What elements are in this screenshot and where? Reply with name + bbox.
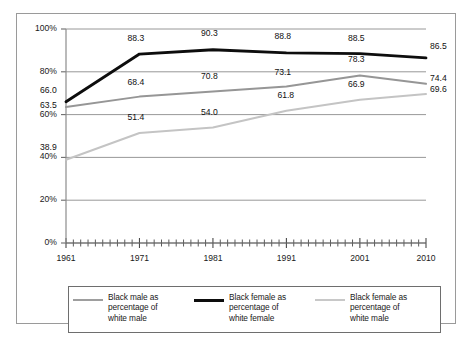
line-chart-plot xyxy=(17,14,455,323)
legend-label-2: Black female as percentage of white male xyxy=(350,292,407,323)
data-point-label: 69.6 xyxy=(430,84,447,94)
data-point-label: 54.0 xyxy=(201,107,218,117)
legend-line-swatch-0 xyxy=(73,293,103,305)
data-point-label: 88.5 xyxy=(348,33,365,43)
legend-entry-black-female-white-female: Black female as percentage of white fema… xyxy=(194,292,315,323)
x-axis-tick-label: 2001 xyxy=(335,253,385,263)
y-axis-tick-label: 0% xyxy=(17,237,57,247)
data-point-label: 73.1 xyxy=(274,67,291,77)
series-lines xyxy=(66,50,426,160)
x-axis-tick-label: 1991 xyxy=(261,253,311,263)
legend-entry-black-male-white-male: Black male as percentage of white male xyxy=(73,292,194,323)
legend-line-swatch-1 xyxy=(194,293,224,305)
data-point-label: 61.8 xyxy=(277,90,294,100)
x-axis-tick-label: 2010 xyxy=(401,253,451,263)
chart-screenshot: 0%20%40%60%80%100% 196119711981199120012… xyxy=(0,0,473,338)
y-axis-tick-label: 100% xyxy=(17,23,57,33)
data-point-label: 90.3 xyxy=(201,28,218,38)
legend-label-1: Black female as percentage of white fema… xyxy=(229,292,286,323)
x-axis-tick-label: 1981 xyxy=(188,253,238,263)
data-point-label: 66.9 xyxy=(348,79,365,89)
legend-entry-black-female-white-male: Black female as percentage of white male xyxy=(315,292,436,323)
series-line-1 xyxy=(66,50,426,102)
data-point-label: 70.8 xyxy=(201,71,218,81)
data-point-label: 63.5 xyxy=(40,100,57,110)
legend-label-0: Black male as percentage of white male xyxy=(108,292,158,323)
y-axis-tick-label: 80% xyxy=(17,66,57,76)
chart-legend: Black male as percentage of white male B… xyxy=(68,286,441,333)
data-point-label: 66.0 xyxy=(40,85,57,95)
gridlines xyxy=(66,29,426,243)
data-point-label: 88.8 xyxy=(274,31,291,41)
y-axis-tick-marks xyxy=(61,29,66,243)
data-point-label: 38.9 xyxy=(40,142,57,152)
x-axis-tick-label: 1961 xyxy=(41,253,91,263)
series-line-0 xyxy=(66,75,426,107)
data-point-label: 88.3 xyxy=(127,33,144,43)
data-point-label: 86.5 xyxy=(430,41,447,51)
series-line-2 xyxy=(66,94,426,160)
data-point-label: 74.4 xyxy=(430,73,447,83)
data-point-label: 51.4 xyxy=(127,112,144,122)
y-axis-tick-label: 40% xyxy=(17,151,57,161)
figure-frame: 0%20%40%60%80%100% 196119711981199120012… xyxy=(16,13,456,324)
data-point-label: 78.3 xyxy=(348,54,365,64)
legend-line-swatch-2 xyxy=(315,293,345,305)
data-point-label: 68.4 xyxy=(127,77,144,87)
x-axis-tick-label: 1971 xyxy=(114,253,164,263)
y-axis-tick-label: 20% xyxy=(17,194,57,204)
